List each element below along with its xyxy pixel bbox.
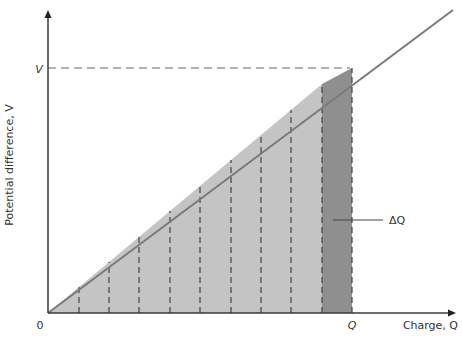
delta-q-label: ΔQ — [389, 214, 406, 227]
y-tick-label: V — [35, 63, 44, 76]
origin-label: 0 — [37, 319, 44, 332]
y-axis-arrow-icon — [45, 10, 52, 18]
x-tick-label: Q — [348, 319, 357, 332]
area-under-line — [48, 84, 322, 313]
x-axis-label: Charge, Q — [403, 319, 458, 332]
y-axis-label: Potential difference, V — [3, 104, 16, 226]
x-axis-arrow-icon — [448, 310, 456, 317]
pd-charge-diagram: V Q 0 Charge, Q Potential difference, V … — [0, 0, 462, 345]
